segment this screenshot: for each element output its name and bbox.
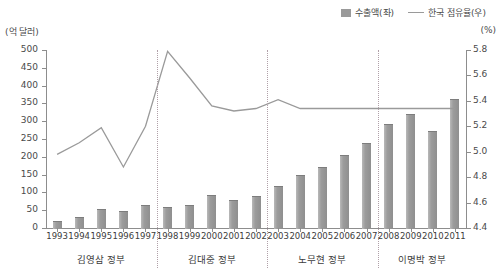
chart-figure: 수출액(좌) 한국 점유율(우) (억 달러) (%) 050100150200… <box>0 0 502 276</box>
share-line <box>57 51 455 167</box>
period-label-1: 김영삼 정부 <box>61 252 141 266</box>
period-label-4: 이명박 정부 <box>382 252 462 266</box>
period-label-3: 노무현 정부 <box>282 252 362 266</box>
x-label-2011: 2011 <box>442 231 468 241</box>
period-label-2: 김대중 정부 <box>172 252 252 266</box>
